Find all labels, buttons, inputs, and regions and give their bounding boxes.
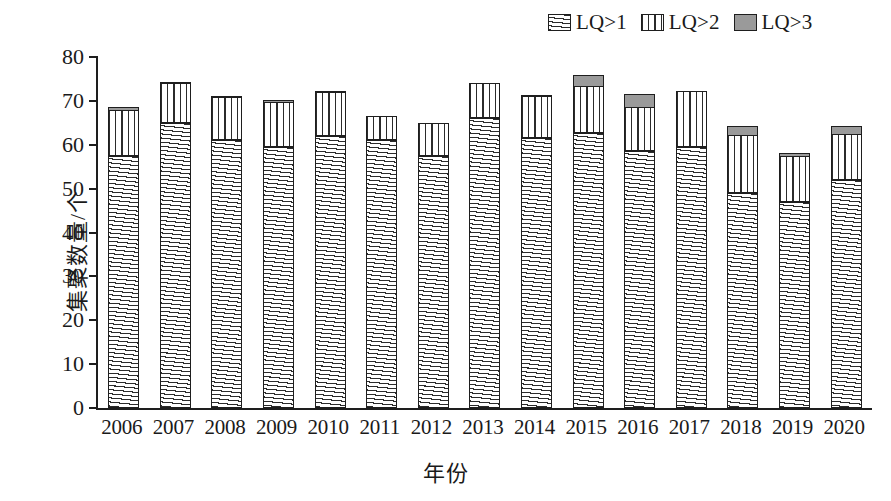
x-axis-label: 年份 (0, 455, 891, 487)
bar-slot (408, 57, 460, 408)
stacked-bar[interactable] (211, 97, 242, 408)
bar-segment-lq1 (779, 202, 810, 408)
bar-segment-lq1 (727, 193, 758, 408)
bar-slot (304, 57, 356, 408)
horizontal-hatch-swatch-icon (548, 14, 571, 31)
stacked-bar[interactable] (469, 84, 500, 408)
bar-segment-lq1 (521, 138, 552, 408)
x-axis-tick-labels: 2006200720082009201020112012201320142015… (96, 415, 870, 440)
y-axis-tick-label: 40 (62, 220, 84, 246)
bar-slot (98, 57, 150, 408)
y-axis-tick (89, 363, 98, 365)
bar-slot (717, 57, 769, 408)
x-axis-tick-label: 2016 (612, 415, 664, 440)
stacked-bar[interactable] (315, 92, 346, 408)
bar-segment-lq1 (211, 140, 242, 408)
x-axis-tick-label: 2009 (251, 415, 303, 440)
bar-segment-lq2 (418, 123, 449, 156)
stacked-bar[interactable] (108, 108, 139, 408)
legend-item-lq3: LQ>3 (734, 12, 813, 33)
bar-segment-lq2 (315, 92, 346, 136)
bar-slot (614, 57, 666, 408)
y-axis-tick-label: 10 (62, 351, 84, 377)
y-axis-tick (89, 188, 98, 190)
x-axis-tick-label: 2013 (457, 415, 509, 440)
stacked-bar[interactable] (779, 155, 810, 408)
stacked-bar[interactable] (573, 76, 604, 408)
stacked-bar[interactable] (521, 97, 552, 408)
bar-segment-lq1 (160, 123, 191, 408)
bar-segment-lq2 (779, 156, 810, 202)
bar-slot (356, 57, 408, 408)
stacked-bar[interactable] (418, 124, 449, 408)
x-axis-tick-label: 2020 (818, 415, 870, 440)
bar-segment-lq2 (727, 135, 758, 193)
bar-slot (769, 57, 821, 408)
bar-segment-lq2 (108, 110, 139, 156)
legend-item-lq2: LQ>2 (641, 12, 720, 33)
bar-segment-lq1 (469, 118, 500, 408)
bar-segment-lq2 (573, 86, 604, 133)
solid-gray-swatch-icon (734, 14, 757, 31)
bar-segment-lq1 (831, 180, 862, 408)
y-axis-tick (89, 407, 98, 409)
bar-slot (253, 57, 305, 408)
x-axis-tick-label: 2018 (715, 415, 767, 440)
stacked-bar[interactable] (727, 128, 758, 408)
bar-segment-lq2 (676, 91, 707, 147)
x-axis-tick-label: 2008 (199, 415, 251, 440)
y-axis-tick-label: 0 (73, 395, 84, 421)
bar-slot (820, 57, 872, 408)
stacked-bar-chart: LQ>1 LQ>2 LQ>3 集聚数量/个 01020304050607080 … (0, 0, 891, 501)
y-axis-tick (89, 275, 98, 277)
bar-group (98, 57, 872, 408)
bar-segment-lq1 (366, 140, 397, 408)
y-axis-tick (89, 232, 98, 234)
stacked-bar[interactable] (263, 101, 294, 408)
stacked-bar[interactable] (366, 118, 397, 408)
stacked-bar[interactable] (676, 92, 707, 408)
bar-segment-lq1 (573, 133, 604, 408)
x-axis-tick-label: 2010 (302, 415, 354, 440)
legend-item-lq1: LQ>1 (548, 12, 627, 33)
bar-slot (562, 57, 614, 408)
x-axis-tick-label: 2019 (767, 415, 819, 440)
bar-slot (666, 57, 718, 408)
bar-segment-lq2 (160, 83, 191, 122)
y-axis-tick (89, 319, 98, 321)
bar-segment-lq1 (263, 147, 294, 408)
stacked-bar[interactable] (624, 95, 655, 408)
bar-slot (201, 57, 253, 408)
y-axis-tick-label: 70 (62, 88, 84, 114)
bar-segment-lq1 (418, 156, 449, 408)
bar-segment-lq2 (211, 97, 242, 140)
bar-segment-lq2 (366, 116, 397, 140)
bar-segment-lq1 (315, 136, 346, 408)
y-axis-label: 集聚数量/个 (59, 189, 91, 311)
bar-slot (459, 57, 511, 408)
chart-legend: LQ>1 LQ>2 LQ>3 (548, 12, 812, 33)
bar-segment-lq1 (624, 151, 655, 408)
y-axis-tick (89, 100, 98, 102)
x-axis-tick-label: 2014 (509, 415, 561, 440)
y-axis-tick-label: 30 (62, 263, 84, 289)
bar-segment-lq1 (676, 147, 707, 408)
bar-segment-lq2 (263, 102, 294, 147)
y-axis-tick-label: 80 (62, 44, 84, 70)
x-axis-tick-label: 2015 (560, 415, 612, 440)
y-axis-tick-label: 50 (62, 176, 84, 202)
bar-segment-lq2 (624, 107, 655, 151)
legend-label-lq1: LQ>1 (576, 12, 627, 33)
y-axis-tick (89, 56, 98, 58)
x-axis-tick-label: 2011 (354, 415, 406, 440)
bar-slot (511, 57, 563, 408)
bar-segment-lq2 (469, 83, 500, 118)
legend-label-lq2: LQ>2 (669, 12, 720, 33)
stacked-bar[interactable] (160, 83, 191, 408)
plot-area: 01020304050607080 (96, 57, 872, 410)
stacked-bar[interactable] (831, 128, 862, 408)
y-axis-tick (89, 144, 98, 146)
vertical-hatch-swatch-icon (641, 14, 664, 31)
legend-label-lq3: LQ>3 (762, 12, 813, 33)
bar-segment-lq2 (831, 134, 862, 180)
